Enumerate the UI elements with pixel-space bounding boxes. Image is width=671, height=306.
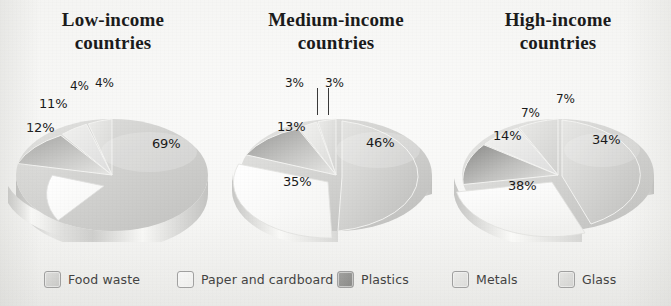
pie-chart-medium-income (228, 74, 444, 242)
pct-high-plastics: 14% (493, 128, 521, 143)
legend-item-food-waste[interactable]: Food waste (44, 271, 140, 288)
legend-item-glass[interactable]: Glass (558, 271, 616, 288)
leader-line-medium-glass (328, 88, 329, 115)
panel-title-high-income: High-income countries (452, 8, 664, 54)
pct-low-metals: 4% (70, 79, 89, 93)
pct-medium-paper: 35% (283, 174, 311, 189)
legend-label-food-waste: Food waste (68, 272, 140, 287)
legend: Food waste Paper and cardboard Plastics … (0, 262, 671, 296)
legend-label-metals: Metals (476, 272, 518, 287)
pie-medium-svg (228, 74, 444, 242)
pct-high-metals: 7% (521, 106, 540, 120)
panel-title-low-income: Low-income countries (8, 8, 218, 54)
pct-high-food: 34% (592, 132, 620, 147)
pct-high-glass: 7% (556, 92, 575, 106)
legend-swatch-food-waste (44, 271, 61, 288)
legend-swatch-paper-and-cardboard (177, 271, 194, 288)
panel-title-medium-income: Medium-income countries (228, 8, 444, 54)
pie-low-highlight (101, 132, 197, 172)
leader-line-medium-metals (317, 88, 318, 115)
pct-high-paper: 38% (508, 178, 536, 193)
pct-medium-metals: 3% (285, 76, 304, 90)
legend-label-paper-and-cardboard: Paper and cardboard (201, 272, 333, 287)
figure-canvas: Low-income countries Medium-income count… (0, 0, 671, 306)
legend-swatch-metals (452, 271, 469, 288)
legend-item-plastics[interactable]: Plastics (337, 271, 409, 288)
legend-swatch-glass (558, 271, 575, 288)
pie-low-svg (4, 74, 220, 242)
pct-low-paper: 12% (26, 120, 54, 135)
pct-low-food: 69% (152, 136, 180, 151)
legend-swatch-plastics (337, 271, 354, 288)
legend-item-metals[interactable]: Metals (452, 271, 518, 288)
legend-label-glass: Glass (582, 272, 616, 287)
pie-chart-low-income (4, 74, 220, 242)
legend-item-paper-and-cardboard[interactable]: Paper and cardboard (177, 271, 333, 288)
pct-medium-food: 46% (366, 135, 394, 150)
legend-label-plastics: Plastics (361, 272, 409, 287)
pct-low-glass: 4% (95, 76, 114, 90)
pct-low-plastics: 11% (39, 96, 67, 111)
pct-medium-plastics: 13% (277, 119, 305, 134)
